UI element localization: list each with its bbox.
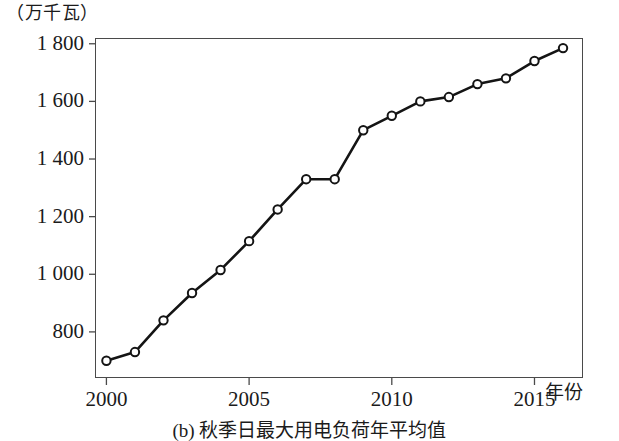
data-point-marker — [502, 74, 510, 82]
data-point-marker — [102, 357, 110, 365]
x-tick-label: 2005 — [214, 389, 284, 410]
chart-plot-svg — [0, 0, 619, 441]
data-point-marker — [188, 289, 196, 297]
y-tick-marks-group — [89, 44, 95, 332]
data-point-marker — [131, 348, 139, 356]
y-tick-label: 1 800 — [37, 33, 84, 54]
data-point-marker — [559, 44, 567, 52]
series-line-path — [106, 48, 563, 361]
data-point-marker — [445, 93, 453, 101]
data-point-marker — [388, 112, 396, 120]
data-point-marker — [359, 126, 367, 134]
y-tick-label: 1 000 — [37, 263, 84, 284]
y-tick-label: 800 — [53, 321, 85, 342]
data-point-marker — [273, 205, 281, 213]
data-point-marker — [416, 97, 424, 105]
x-tick-label: 2000 — [71, 389, 141, 410]
data-point-marker — [245, 237, 253, 245]
data-point-marker — [530, 57, 538, 65]
line-chart-figure: （万千瓦） 8001 0001 2001 4001 6001 800 20002… — [0, 0, 619, 441]
x-tick-label: 2010 — [357, 389, 427, 410]
x-tick-marks-group — [106, 378, 534, 385]
series-markers-group — [102, 44, 567, 365]
data-point-marker — [473, 80, 481, 88]
y-tick-label: 1 200 — [37, 206, 84, 227]
figure-caption: (b) 秋季日最大用电负荷年平均值 — [0, 420, 619, 441]
y-tick-label: 1 400 — [37, 148, 84, 169]
y-tick-label: 1 600 — [37, 90, 84, 111]
data-point-marker — [159, 316, 167, 324]
data-point-marker — [302, 175, 310, 183]
x-axis-name-label: 年份 — [545, 382, 583, 403]
data-point-marker — [331, 175, 339, 183]
data-point-marker — [216, 266, 224, 274]
